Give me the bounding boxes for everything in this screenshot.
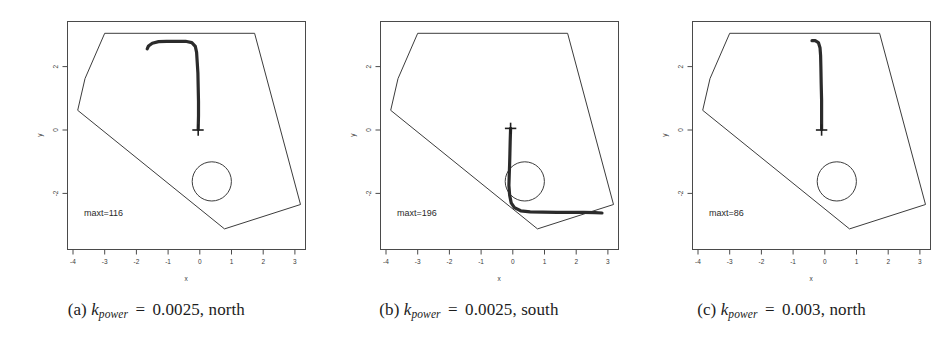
caption-a-var: k (91, 300, 99, 319)
xtick-label: -4 (383, 258, 389, 265)
caption-a-direction: north (209, 300, 245, 319)
xtick-label: -3 (414, 258, 420, 265)
caption-a: (a) kpower = 0.0025, north (0, 292, 313, 348)
xtick-label: -1 (165, 258, 171, 265)
ytick-label: -2 (364, 190, 371, 196)
caption-b-subscript: power (411, 308, 440, 320)
y-axis-ticks: 2 0 -2 (52, 64, 68, 196)
panel-b: -4 -3 -2 -1 0 1 2 3 x 2 0 -2 (313, 0, 626, 292)
caption-c-value: 0.003, (782, 300, 825, 319)
xtick-label: -3 (727, 258, 733, 265)
y-axis-label: y (348, 133, 356, 137)
ytick-label: 0 (677, 128, 684, 132)
caption-a-value: 0.0025, (152, 300, 204, 319)
panel-b-plot: -4 -3 -2 -1 0 1 2 3 x 2 0 -2 (313, 0, 625, 292)
start-marker-icon (504, 123, 515, 134)
x-axis-ticks: -4 -3 -2 -1 0 1 2 3 (70, 250, 297, 266)
xtick-label: -4 (695, 258, 701, 265)
trajectory-path (508, 128, 601, 213)
ytick-label: -2 (677, 190, 684, 196)
trajectory-path (147, 41, 198, 129)
xtick-label: 1 (230, 258, 234, 265)
ytick-label: 2 (52, 64, 59, 68)
ytick-label: 0 (364, 128, 371, 132)
caption-c: (c) kpower = 0.003, north (625, 292, 938, 348)
xtick-label: 0 (823, 258, 827, 265)
xtick-label: 2 (261, 258, 265, 265)
xtick-label: 2 (887, 258, 891, 265)
x-axis-label: x (184, 275, 188, 282)
xtick-label: 0 (198, 258, 202, 265)
panel-a: -4 -3 -2 -1 0 1 2 3 x 2 0 -2 (0, 0, 313, 292)
trajectory-path (812, 41, 822, 130)
panel-c-plot: -4 -3 -2 -1 0 1 2 3 x 2 0 -2 (625, 0, 937, 292)
caption-a-subscript: power (99, 308, 128, 320)
caption-b-equals: = (445, 300, 461, 319)
panel-row: -4 -3 -2 -1 0 1 2 3 x 2 0 -2 (0, 0, 938, 292)
caption-a-equals: = (132, 300, 148, 319)
xtick-label: -2 (446, 258, 452, 265)
region-boundary (78, 33, 301, 229)
x-axis-ticks: -4 -3 -2 -1 0 1 2 3 (383, 250, 610, 266)
x-axis-label: x (810, 275, 814, 282)
xtick-label: 3 (606, 258, 610, 265)
xtick-label: -2 (759, 258, 765, 265)
y-axis-ticks: 2 0 -2 (677, 64, 693, 196)
ytick-label: 2 (364, 64, 371, 68)
x-axis-ticks: -4 -3 -2 -1 0 1 2 3 (695, 250, 922, 266)
caption-c-direction: north (829, 300, 865, 319)
panel-c: -4 -3 -2 -1 0 1 2 3 x 2 0 -2 (625, 0, 938, 292)
ytick-label: 2 (677, 64, 684, 68)
xtick-label: -2 (134, 258, 140, 265)
obstacle-circle (817, 162, 856, 201)
x-axis-label: x (497, 275, 501, 282)
start-marker-icon (816, 124, 827, 135)
ytick-label: 0 (52, 128, 59, 132)
xtick-label: -1 (790, 258, 796, 265)
caption-a-label: (a) (68, 300, 87, 319)
region-boundary (703, 33, 926, 229)
xtick-label: 0 (511, 258, 515, 265)
caption-b-direction: south (521, 300, 558, 319)
xtick-label: 2 (574, 258, 578, 265)
xtick-label: 3 (918, 258, 922, 265)
trajectory-figure: -4 -3 -2 -1 0 1 2 3 x 2 0 -2 (0, 0, 938, 348)
xtick-label: 1 (542, 258, 546, 265)
maxt-annotation: maxt=116 (84, 208, 123, 218)
xtick-label: -1 (478, 258, 484, 265)
maxt-annotation: maxt=86 (709, 208, 744, 218)
xtick-label: -4 (70, 258, 76, 265)
maxt-annotation: maxt=196 (397, 208, 437, 218)
caption-b: (b) kpower = 0.0025, south (313, 292, 626, 348)
caption-c-subscript: power (728, 308, 757, 320)
caption-c-equals: = (762, 300, 778, 319)
obstacle-circle (192, 162, 231, 201)
xtick-label: 1 (855, 258, 859, 265)
region-boundary (390, 33, 613, 229)
y-axis-label: y (661, 133, 669, 137)
panel-a-plot: -4 -3 -2 -1 0 1 2 3 x 2 0 -2 (0, 0, 312, 292)
caption-b-label: (b) (379, 300, 399, 319)
xtick-label: 3 (293, 258, 297, 265)
caption-b-value: 0.0025, (465, 300, 517, 319)
start-marker-icon (192, 124, 203, 135)
caption-row: (a) kpower = 0.0025, north (b) kpower = … (0, 292, 938, 348)
y-axis-label: y (36, 133, 44, 137)
y-axis-ticks: 2 0 -2 (364, 64, 380, 196)
xtick-label: -3 (102, 258, 108, 265)
caption-c-label: (c) (697, 300, 716, 319)
ytick-label: -2 (52, 190, 59, 196)
